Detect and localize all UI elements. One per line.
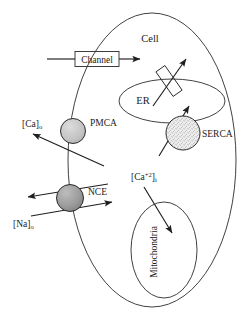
nce-exchanger-circle (57, 185, 84, 212)
pmca-label: PMCA (90, 118, 117, 128)
nce-label: NCE (88, 187, 107, 197)
mitochondria-ellipse (131, 202, 197, 298)
er-channel-release-arrow (153, 59, 186, 106)
serca-pump-circle (166, 116, 200, 150)
extracellular-sodium-label: [Na]o (13, 219, 34, 230)
mitochondria-uptake-arrow (144, 187, 172, 233)
extracellular-calcium-label: [Ca]o (22, 119, 43, 130)
mitochondria-label: Mitochondria (149, 225, 159, 277)
figure-canvas: Cell Channel ER SERCA PMCA [Ca]o (0, 0, 249, 314)
cytosolic-calcium-label: [Ca+2]i (131, 171, 157, 184)
channel-label: Channel (81, 55, 113, 65)
er-label: ER (136, 95, 149, 106)
cell-label: Cell (141, 33, 159, 44)
cell-calcium-signaling-diagram: Cell Channel ER SERCA PMCA [Ca]o (0, 0, 249, 314)
pmca-transporter-circle (61, 119, 86, 144)
serca-label: SERCA (202, 129, 233, 139)
er-ellipse (119, 79, 225, 123)
